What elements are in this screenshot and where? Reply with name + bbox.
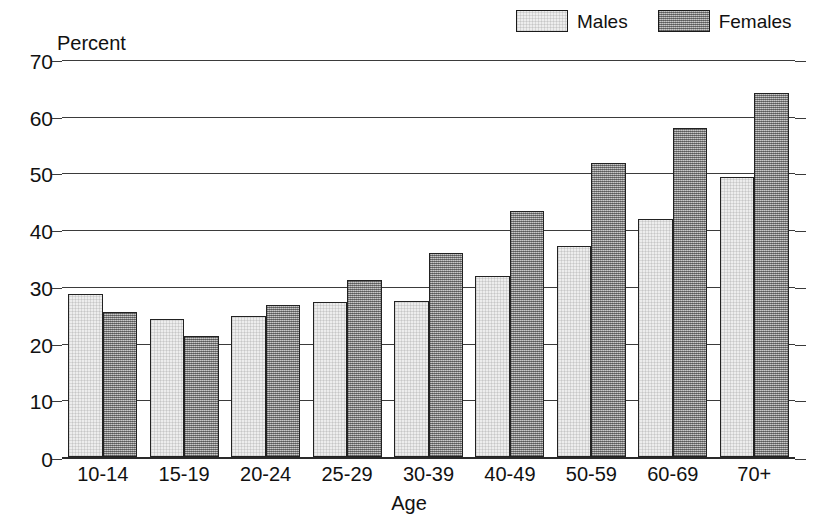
y-tick-mark-left-70 [52, 61, 62, 62]
x-tick-label-10-14: 10-14 [77, 463, 128, 485]
bar-males-15-19 [150, 319, 185, 457]
legend-swatch-males-icon [516, 10, 568, 32]
chart-legend: Males Females [516, 8, 792, 34]
bar-females-60-69 [673, 128, 708, 457]
x-tick-label-25-29: 25-29 [321, 463, 372, 485]
y-tick-mark-left-40 [52, 231, 62, 232]
y-tick-mark-left-10 [52, 401, 62, 402]
x-tick-label-20-24: 20-24 [240, 463, 291, 485]
bar-females-25-29 [347, 280, 382, 457]
x-tick-label-60-69: 60-69 [647, 463, 698, 485]
y-tick-mark-left-20 [52, 345, 62, 346]
bar-males-10-14 [68, 294, 103, 457]
y-tick-mark-right-40 [795, 231, 806, 232]
y-tick-label-30: 30 [30, 277, 53, 298]
x-axis-tick-labels: 10-1415-1920-2425-2930-3940-4950-5960-69… [62, 463, 795, 491]
legend-label-females: Females [719, 12, 792, 31]
x-tick-label-15-19: 15-19 [159, 463, 210, 485]
y-tick-label-40: 40 [30, 221, 53, 242]
legend-label-males: Males [577, 12, 628, 31]
bar-females-40-49 [510, 211, 545, 457]
bar-males-70+ [720, 177, 755, 457]
bar-males-40-49 [475, 276, 510, 457]
x-tick-label-50-59: 50-59 [566, 463, 617, 485]
bar-females-15-19 [184, 336, 219, 457]
x-tick-label-40-49: 40-49 [484, 463, 535, 485]
bar-males-50-59 [557, 246, 592, 457]
y-tick-mark-right-20 [795, 345, 806, 346]
y-tick-mark-right-0 [795, 459, 806, 460]
legend-item-males: Males [516, 10, 628, 32]
y-tick-mark-left-0 [52, 459, 62, 460]
bar-females-50-59 [591, 163, 626, 457]
legend-swatch-females-icon [658, 10, 710, 32]
bar-males-25-29 [313, 302, 348, 457]
bar-females-10-14 [103, 312, 138, 457]
y-tick-mark-left-60 [52, 118, 62, 119]
bar-males-30-39 [394, 301, 429, 457]
y-tick-mark-left-50 [52, 174, 62, 175]
x-axis-title: Age [0, 492, 818, 514]
y-tick-label-20: 20 [30, 334, 53, 355]
y-tick-label-70: 70 [30, 51, 53, 72]
y-tick-mark-right-10 [795, 401, 806, 402]
plot-area: 010203040506070 [62, 60, 795, 457]
y-tick-mark-right-60 [795, 118, 806, 119]
y-axis-title: Percent [57, 33, 126, 53]
bar-males-20-24 [231, 316, 266, 457]
x-tick-label-70+: 70+ [737, 463, 771, 485]
y-tick-mark-left-30 [52, 288, 62, 289]
bars-layer [62, 60, 795, 457]
bar-females-30-39 [429, 253, 464, 457]
legend-item-females: Females [658, 10, 792, 32]
bar-chart: Males Females Percent 010203040506070 10… [0, 0, 818, 529]
y-tick-mark-right-70 [795, 61, 806, 62]
y-tick-mark-right-30 [795, 288, 806, 289]
gridline-0: 0 [62, 457, 795, 459]
y-tick-mark-right-50 [795, 174, 806, 175]
bar-males-60-69 [638, 219, 673, 457]
x-tick-label-30-39: 30-39 [403, 463, 454, 485]
y-tick-label-10: 10 [30, 391, 53, 412]
bar-females-70+ [754, 93, 789, 457]
y-tick-label-60: 60 [30, 107, 53, 128]
y-tick-label-50: 50 [30, 164, 53, 185]
bar-females-20-24 [266, 305, 301, 457]
